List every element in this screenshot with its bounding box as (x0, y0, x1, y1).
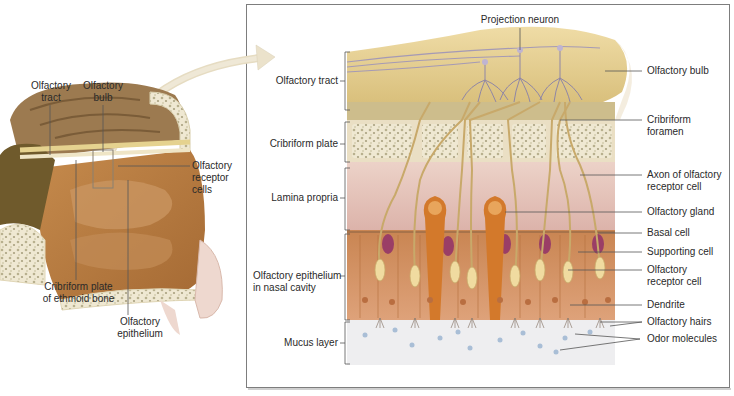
olfactory-tissue-illustration (340, 27, 642, 365)
label-olfactory-receptor-cells-sagittal: Olfactory receptor cells (192, 160, 232, 196)
label-axon-of-olfactory-receptor-cell: Axon of olfactory receptor cell (647, 169, 721, 193)
label-cribriform-plate-ethmoid: Cribriform plate of ethmoid bone (36, 281, 121, 305)
label-projection-neuron: Projection neuron (465, 14, 575, 26)
label-dendrite: Dendrite (647, 299, 685, 311)
label-cribriform-foramen: Cribriform foramen (647, 114, 691, 138)
diagram-artwork (0, 0, 734, 396)
label-lamina-propria: Lamina propria (250, 192, 338, 204)
label-supporting-cell: Supporting cell (647, 246, 713, 258)
label-olfactory-gland: Olfactory gland (647, 206, 714, 218)
label-basal-cell: Basal cell (647, 227, 690, 239)
label-cribriform-plate: Cribriform plate (250, 138, 338, 150)
label-olfactory-bulb-sagittal: Olfactory bulb (77, 80, 129, 104)
label-olfactory-bulb: Olfactory bulb (647, 65, 709, 77)
label-olfactory-receptor-cell: Olfactory receptor cell (647, 264, 701, 288)
label-olfactory-epithelium-sagittal: Olfactory epithelium (112, 316, 168, 340)
label-mucus-layer: Mucus layer (250, 337, 338, 349)
label-olfactory-tract: Olfactory tract (250, 75, 338, 87)
label-olfactory-hairs: Olfactory hairs (647, 316, 711, 328)
label-olfactory-epithelium: Olfactory epithelium in nasal cavity (253, 270, 341, 294)
label-odor-molecules: Odor molecules (647, 333, 717, 345)
label-olfactory-tract-sagittal: Olfactory tract (25, 80, 77, 104)
